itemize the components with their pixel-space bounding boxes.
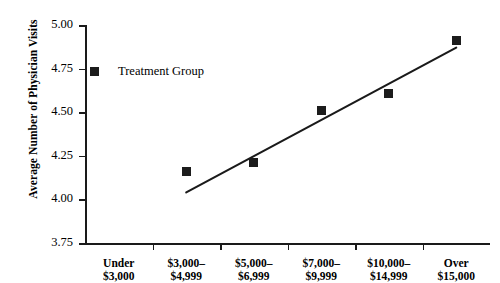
x-axis-tick xyxy=(423,243,425,250)
y-axis-tick-label: 4.50 xyxy=(33,104,73,119)
legend: Treatment Group xyxy=(90,64,204,79)
plot-area: 3.754.004.254.504.755.00 Under$3,000$3,0… xyxy=(85,25,490,243)
legend-swatch-treatment-group xyxy=(90,67,99,76)
data-point xyxy=(249,158,258,167)
trend-line xyxy=(85,25,490,243)
x-axis-category-label-line: Under xyxy=(85,257,153,270)
data-point xyxy=(317,106,326,115)
y-axis-tick-label: 3.75 xyxy=(33,235,73,250)
data-point xyxy=(452,36,461,45)
x-axis-category-label-line: $5,000– xyxy=(220,257,288,270)
y-axis-tick-label: 4.25 xyxy=(33,148,73,163)
y-axis-tick-label: 4.75 xyxy=(33,61,73,76)
x-axis-category-label: Over$15,000 xyxy=(423,257,491,283)
x-axis-category-label-line: $6,999 xyxy=(220,270,288,283)
x-axis-tick xyxy=(153,243,155,250)
x-axis-tick xyxy=(355,243,357,250)
legend-label-treatment-group: Treatment Group xyxy=(118,64,204,79)
x-axis-category-label: $5,000–$6,999 xyxy=(220,257,288,283)
y-axis-tick-label: 4.00 xyxy=(33,191,73,206)
x-axis-category-label-line: $3,000 xyxy=(85,270,153,283)
x-axis-category-label-line: $3,000– xyxy=(153,257,221,270)
x-axis-category-label-line: $7,000– xyxy=(288,257,356,270)
y-axis-tick: 3.75 xyxy=(79,243,87,245)
x-axis-category-label: $10,000–$14,999 xyxy=(355,257,423,283)
x-axis-category-label: $3,000–$4,999 xyxy=(153,257,221,283)
x-axis-category-label-line: $9,999 xyxy=(288,270,356,283)
x-axis-category-label-line: $14,999 xyxy=(355,270,423,283)
data-point xyxy=(384,89,393,98)
x-axis-category-label: Under$3,000 xyxy=(85,257,153,283)
x-axis-category-label-line: $15,000 xyxy=(423,270,491,283)
x-axis-tick xyxy=(288,243,290,250)
x-axis-category-label-line: $10,000– xyxy=(355,257,423,270)
x-axis-category-label-line: Over xyxy=(423,257,491,270)
x-axis-tick xyxy=(220,243,222,250)
x-axis-category-label-line: $4,999 xyxy=(153,270,221,283)
x-axis-category-label: $7,000–$9,999 xyxy=(288,257,356,283)
data-point xyxy=(182,167,191,176)
y-axis-tick-label: 5.00 xyxy=(33,17,73,32)
